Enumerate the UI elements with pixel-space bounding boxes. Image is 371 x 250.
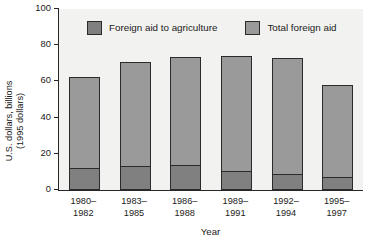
- bar-segment-total-foreign-aid: [221, 56, 252, 190]
- x-axis-tick-label-1986–1988: 1986–1988: [157, 196, 213, 219]
- bar-segment-total-foreign-aid: [272, 58, 303, 190]
- x-axis-tick-label-line: 1986–: [157, 196, 213, 208]
- x-axis-tick-labels: 1980–19821983–19851986–19881989–19911992…: [58, 196, 363, 224]
- x-axis-title: Year: [58, 226, 363, 237]
- x-axis-tick-label-line: 1983–: [106, 196, 162, 208]
- bar-segment-foreign-aid-to-agriculture: [322, 177, 353, 190]
- bar-segment-foreign-aid-to-agriculture: [69, 168, 100, 190]
- legend: Foreign aid to agriculture Total foreign…: [60, 18, 360, 38]
- y-axis-tick-label-0: 0: [46, 183, 51, 195]
- bar-segment-total-foreign-aid: [322, 85, 353, 190]
- bar-segment-foreign-aid-to-agriculture: [170, 165, 201, 190]
- x-axis-tick-label-line: 1995–: [309, 196, 365, 208]
- y-axis-title: U.S. dollars, billions (1995 dollars): [0, 48, 30, 188]
- y-axis-tick-60: 60: [54, 80, 59, 81]
- x-axis-tick-label-1995–1997: 1995–1997: [309, 196, 365, 219]
- x-axis-tick-label-1989–1991: 1989–1991: [207, 196, 263, 219]
- x-axis-tick-label-line: 1989–: [207, 196, 263, 208]
- legend-swatch-icon-total: [245, 21, 260, 35]
- bar-1992–1994: [272, 58, 303, 190]
- x-axis-tick-label-line: 1994: [258, 208, 314, 220]
- bar-1986–1988: [170, 57, 201, 190]
- bar-segment-foreign-aid-to-agriculture: [221, 171, 252, 190]
- y-axis-tick-label-20: 20: [41, 147, 51, 159]
- y-axis-tick-80: 80: [54, 44, 59, 45]
- y-axis-tick-label-40: 40: [41, 111, 51, 123]
- y-axis-tick-label-100: 100: [35, 2, 51, 14]
- bar-1980–1982: [69, 77, 100, 190]
- y-axis-tick-label-60: 60: [41, 74, 51, 86]
- y-axis-title-line2: (1995 dollars): [15, 50, 26, 192]
- bar-1983–1985: [120, 62, 151, 191]
- bar-segment-foreign-aid-to-agriculture: [272, 174, 303, 190]
- bar-1995–1997: [322, 85, 353, 190]
- y-axis-tick-40: 40: [54, 117, 59, 118]
- legend-item-total-foreign-aid: Total foreign aid: [245, 21, 336, 35]
- x-axis-tick-label-line: 1988: [157, 208, 213, 220]
- x-axis-tick-label-line: 1991: [207, 208, 263, 220]
- x-axis-tick-label-line: 1997: [309, 208, 365, 220]
- x-axis-tick-label-line: 1985: [106, 208, 162, 220]
- bar-1989–1991: [221, 56, 252, 190]
- x-axis-tick-label-line: 1980–: [55, 196, 111, 208]
- x-axis-tick-label-line: 1992–: [258, 196, 314, 208]
- x-axis-tick-label-line: 1982: [55, 208, 111, 220]
- y-axis-tick-20: 20: [54, 153, 59, 154]
- legend-label-total: Total foreign aid: [267, 22, 336, 34]
- legend-label-agriculture: Foreign aid to agriculture: [109, 22, 217, 34]
- bar-segment-foreign-aid-to-agriculture: [120, 166, 151, 190]
- y-axis-tick-label-80: 80: [41, 38, 51, 50]
- legend-swatch-icon-agriculture: [87, 21, 102, 35]
- y-axis-tick-100: 100: [54, 8, 59, 9]
- y-axis-title-line1: U.S. dollars, billions: [4, 50, 15, 192]
- legend-item-foreign-aid-to-agriculture: Foreign aid to agriculture: [87, 21, 217, 35]
- chart-figure: U.S. dollars, billions (1995 dollars) 02…: [0, 0, 371, 250]
- x-axis-tick-label-1992–1994: 1992–1994: [258, 196, 314, 219]
- x-axis-tick-label-1983–1985: 1983–1985: [106, 196, 162, 219]
- x-axis-tick-label-1980–1982: 1980–1982: [55, 196, 111, 219]
- y-axis-tick-0: 0: [54, 189, 59, 190]
